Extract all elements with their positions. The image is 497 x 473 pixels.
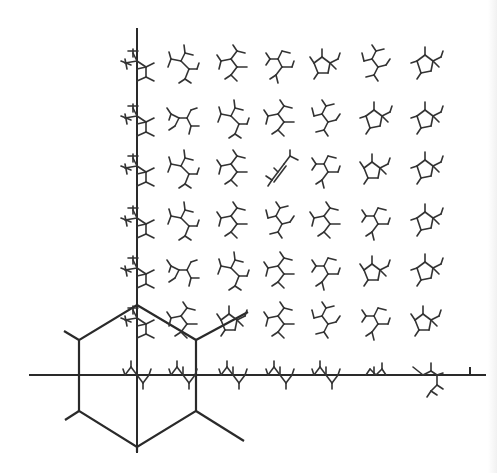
conformer-molecule (360, 102, 392, 134)
conformer-molecule (264, 302, 294, 338)
conformer-molecule (217, 150, 247, 186)
conformer-molecule (264, 252, 294, 288)
conformer-molecule (167, 260, 199, 286)
conformer-molecule (312, 156, 340, 188)
conformer-molecule (360, 154, 390, 184)
conformer-molecule (366, 363, 386, 375)
conformer-molecule (360, 256, 390, 286)
hexagon-bond (65, 411, 79, 420)
conformer-molecule (310, 49, 340, 79)
conformer-molecule (411, 204, 443, 236)
axes (30, 29, 485, 452)
conformer-molecule (218, 100, 249, 138)
conformer-molecule (312, 100, 340, 136)
conformer-molecule (362, 208, 390, 240)
conformer-molecule (266, 51, 294, 83)
chair-hexagon-projection (64, 305, 248, 452)
conformer-molecule (411, 47, 443, 79)
conformer-molecule (411, 306, 441, 336)
conformer-molecule (168, 202, 199, 240)
hexagon-bond (64, 331, 79, 340)
conformer-molecule (362, 45, 390, 81)
hexagon-bond (196, 411, 244, 441)
conformer-molecule (167, 108, 199, 134)
conformation-diagram (0, 0, 497, 473)
conformer-molecule (411, 152, 443, 184)
conformer-grid (121, 45, 443, 397)
conformer-molecule (310, 202, 340, 238)
conformer-molecule (411, 102, 443, 134)
conformer-molecule (266, 202, 294, 238)
conformer-molecule (413, 363, 443, 397)
conformer-molecule (168, 45, 199, 83)
conformer-molecule (217, 45, 247, 81)
conformer-molecule (312, 302, 340, 338)
conformer-molecule (312, 258, 340, 290)
conformer-molecule (168, 150, 199, 188)
conformer-molecule (217, 202, 247, 238)
conformer-molecule (167, 302, 197, 338)
conformer-molecule (266, 150, 298, 186)
conformer-molecule (362, 308, 390, 340)
conformer-molecule (264, 100, 294, 136)
conformer-molecule (411, 254, 443, 286)
conformer-molecule (218, 252, 249, 290)
